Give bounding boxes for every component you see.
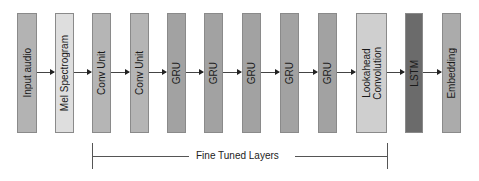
node-label: Lookahead Convolution bbox=[361, 47, 383, 100]
arrow-connector bbox=[261, 72, 279, 73]
node-gru-4: GRU bbox=[280, 13, 299, 133]
node-gru-1: GRU bbox=[167, 13, 186, 133]
bracket-line-left bbox=[92, 156, 189, 157]
arrow-connector bbox=[299, 72, 317, 73]
bracket-line-right bbox=[295, 156, 387, 157]
arrow-connector bbox=[74, 72, 91, 73]
node-label: Input audio bbox=[22, 48, 33, 98]
node-gru-3: GRU bbox=[242, 13, 261, 133]
node-label: GRU bbox=[246, 62, 257, 84]
fine-tuned-layers-label: Fine Tuned Layers bbox=[196, 150, 279, 161]
node-input-audio: Input audio bbox=[17, 13, 37, 133]
arrow-connector bbox=[423, 72, 441, 73]
arrow-connector bbox=[37, 72, 54, 73]
node-label: GRU bbox=[171, 62, 182, 84]
node-label: Mel Spectrogram bbox=[59, 35, 70, 111]
node-label: GRU bbox=[322, 62, 333, 84]
node-label: GRU bbox=[284, 62, 295, 84]
node-lookahead-convolution: Lookahead Convolution bbox=[356, 13, 387, 133]
bracket-right-tick bbox=[387, 143, 388, 169]
node-mel-spectrogram: Mel Spectrogram bbox=[55, 13, 74, 133]
node-gru-2: GRU bbox=[204, 13, 223, 133]
node-label: Conv Unit bbox=[134, 51, 145, 95]
node-label: LSTM bbox=[409, 60, 420, 87]
node-embedding: Embedding bbox=[442, 13, 461, 133]
node-label: GRU bbox=[208, 62, 219, 84]
arrow-connector bbox=[186, 72, 203, 73]
node-conv-unit-2: Conv Unit bbox=[130, 13, 149, 133]
node-lstm: LSTM bbox=[405, 13, 423, 133]
node-gru-5: GRU bbox=[318, 13, 337, 133]
node-conv-unit-1: Conv Unit bbox=[92, 13, 111, 133]
arrow-connector bbox=[223, 72, 241, 73]
arrow-connector bbox=[337, 72, 355, 73]
arrow-connector bbox=[149, 72, 166, 73]
arrow-connector bbox=[387, 72, 404, 73]
arrow-connector bbox=[111, 72, 129, 73]
node-label: Embedding bbox=[446, 48, 457, 99]
node-label: Conv Unit bbox=[96, 51, 107, 95]
